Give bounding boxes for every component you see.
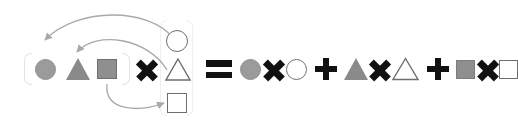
plus-icon-1	[315, 58, 337, 80]
arrow-path-square	[107, 84, 164, 108]
filled-circle	[35, 59, 56, 80]
filled-square	[97, 59, 117, 79]
outline-square	[167, 93, 187, 113]
term3-times-icon	[477, 58, 499, 80]
outline-circle	[166, 30, 188, 52]
term1-outline-circle	[286, 59, 307, 80]
equals-icon	[206, 58, 232, 80]
term2-times-icon	[369, 58, 391, 80]
term3-outline-square	[499, 60, 518, 79]
times-icon	[136, 58, 158, 80]
term2-filled-triangle	[344, 58, 368, 80]
term1-filled-circle	[240, 59, 261, 80]
term1-times-icon	[263, 58, 285, 80]
term3-filled-square	[456, 60, 475, 79]
filled-triangle	[66, 58, 90, 80]
plus-icon-2	[427, 58, 449, 80]
